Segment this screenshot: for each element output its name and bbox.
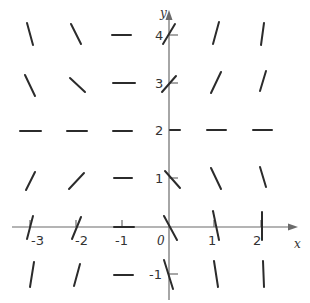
slope-field-diagram: y x 0 4 3 2 1 -1 -3 -2 -1 1 2 (0, 0, 310, 303)
slope-segment (260, 167, 266, 187)
slope-segment (26, 172, 35, 190)
y-axis-label: y (159, 6, 167, 20)
x-tick-label-neg2: -2 (75, 233, 88, 248)
slope-segment (71, 24, 81, 44)
slope-segment (261, 23, 264, 45)
slope-segment (165, 171, 180, 188)
origin-label: 0 (157, 234, 165, 248)
x-tick-label-neg1: -1 (115, 233, 128, 248)
x-tick-label-2: 2 (253, 233, 261, 248)
slope-segment (27, 23, 33, 45)
slope-segment (263, 261, 264, 287)
x-axis-arrow-icon (288, 224, 298, 231)
y-tick-label-3: 3 (155, 76, 163, 91)
slope-segment (30, 262, 34, 287)
slope-segment (74, 264, 80, 286)
slope-segment (211, 72, 221, 93)
x-tick-label-neg3: -3 (31, 233, 44, 248)
y-tick-label-4: 4 (155, 28, 163, 43)
slope-segment (214, 261, 218, 287)
axes (12, 10, 298, 300)
slope-segment (211, 168, 221, 189)
y-tick-label-neg1: -1 (149, 267, 162, 282)
slope-segment (260, 71, 266, 91)
slope-segment (164, 216, 177, 240)
slope-segment (25, 75, 35, 96)
x-tick-label-1: 1 (208, 233, 216, 248)
slope-segment (70, 78, 85, 92)
slope-segments (20, 22, 272, 289)
x-ticks (30, 220, 261, 227)
slope-segment (213, 22, 219, 44)
x-axis-label: x (294, 237, 301, 251)
y-tick-label-1: 1 (155, 171, 163, 186)
slope-segment (69, 173, 84, 189)
y-tick-label-2: 2 (155, 123, 163, 138)
